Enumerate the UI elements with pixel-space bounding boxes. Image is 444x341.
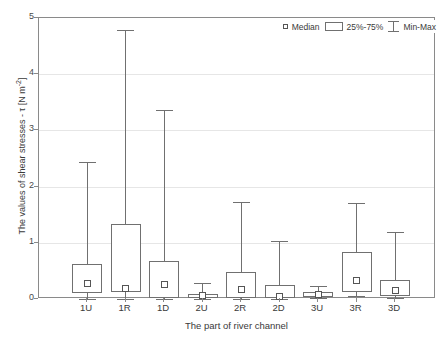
- x-axis-title: The part of river channel: [38, 320, 435, 331]
- median-marker: [353, 277, 360, 284]
- box-outline-icon: [325, 22, 343, 31]
- whisker-cap-max: [117, 30, 134, 31]
- x-tick-label-1d: 1D: [143, 302, 183, 313]
- whisker-cap-min: [79, 299, 96, 300]
- whisker-cap-min: [233, 299, 250, 300]
- whisker-upper: [87, 162, 88, 264]
- y-tick-mark: [34, 17, 38, 18]
- y-tick-mark: [34, 298, 38, 299]
- legend-item-iqr: 25%-75%: [325, 22, 384, 32]
- whisker-cap-min: [117, 299, 134, 300]
- legend-label-minmax: Min-Max: [403, 22, 436, 32]
- median-marker: [84, 280, 91, 287]
- legend-item-median: Median: [283, 22, 320, 32]
- iqr-box: [226, 272, 256, 298]
- whisker-upper: [356, 203, 357, 252]
- whisker-cap-max: [79, 162, 96, 163]
- whisker-bar-icon: [388, 21, 399, 32]
- x-tick-label-3r: 3R: [336, 302, 376, 313]
- whisker-upper: [279, 241, 280, 285]
- whisker-upper: [241, 202, 242, 272]
- median-marker: [276, 293, 283, 300]
- x-tick-label-3u: 3U: [297, 302, 337, 313]
- iqr-box: [72, 264, 102, 293]
- median-marker: [238, 286, 245, 293]
- x-tick-label-2u: 2U: [182, 302, 222, 313]
- whisker-cap-min: [310, 298, 327, 299]
- whisker-upper: [164, 110, 165, 261]
- whisker-cap-min: [194, 299, 211, 300]
- chart-legend: Median 25%-75% Min-Max: [281, 20, 438, 33]
- median-square-icon: [283, 24, 288, 29]
- median-marker: [199, 292, 206, 299]
- box-plot-3d: [370, 18, 420, 299]
- median-marker: [161, 281, 168, 288]
- y-tick-mark: [34, 186, 38, 187]
- median-marker: [315, 291, 322, 298]
- whisker-cap-max: [233, 202, 250, 203]
- whisker-upper: [125, 30, 126, 224]
- iqr-box: [111, 224, 141, 293]
- y-tick-label: 0: [4, 293, 34, 302]
- y-tick-mark: [34, 129, 38, 130]
- x-tick-label-1r: 1R: [105, 302, 145, 313]
- whisker-cap-min: [387, 298, 404, 299]
- whisker-cap-max: [156, 110, 173, 111]
- y-axis-title-exponent: -2: [15, 80, 22, 86]
- iqr-box: [342, 252, 372, 291]
- whisker-upper: [395, 232, 396, 281]
- whisker-cap-max: [387, 232, 404, 233]
- x-tick-label-1u: 1U: [66, 302, 106, 313]
- whisker-cap-min: [348, 296, 365, 297]
- plot-area: [38, 17, 435, 298]
- box-plot-chart: 012345 The values of shear stresses - τ …: [0, 0, 444, 341]
- whisker-cap-min: [156, 299, 173, 300]
- x-tick-label-2r: 2R: [220, 302, 260, 313]
- x-tick-label-3d: 3D: [374, 302, 414, 313]
- median-marker: [392, 287, 399, 294]
- y-axis-title-suffix: ]: [17, 78, 27, 81]
- iqr-box: [149, 261, 179, 298]
- legend-item-minmax: Min-Max: [388, 21, 436, 32]
- whisker-cap-max: [348, 203, 365, 204]
- y-axis-title: The values of shear stresses - τ [N m-2]: [15, 41, 27, 271]
- x-tick-label-2d: 2D: [259, 302, 299, 313]
- y-tick-mark: [34, 242, 38, 243]
- median-marker: [122, 285, 129, 292]
- legend-label-median: Median: [292, 22, 320, 32]
- y-axis-title-text: The values of shear stresses - τ [N m: [17, 86, 27, 234]
- whisker-cap-max: [310, 286, 327, 287]
- whisker-cap-max: [271, 241, 288, 242]
- y-tick-mark: [34, 73, 38, 74]
- legend-label-iqr: 25%-75%: [347, 22, 384, 32]
- whisker-cap-max: [194, 283, 211, 284]
- y-tick-label: 5: [4, 12, 34, 21]
